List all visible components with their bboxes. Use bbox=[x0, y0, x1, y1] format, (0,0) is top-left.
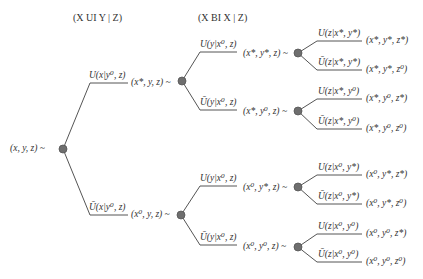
node-icon-l2-0 bbox=[294, 49, 302, 57]
root-state-label: (x, y, z) ~ bbox=[10, 144, 45, 154]
edge-root-upper bbox=[63, 83, 128, 149]
l3-edge-label-3: Ū(z|x*, y⁰) bbox=[318, 117, 359, 127]
l3-state-label-1: (x*, y*, z⁰) bbox=[366, 65, 407, 75]
node-icon-l2-2 bbox=[294, 183, 302, 191]
l2-edge-label-3: Ū(y|x⁰, z) bbox=[200, 233, 237, 243]
l3-edge-label-7: Ū(z|x⁰, y⁰) bbox=[318, 250, 358, 260]
l3-state-label-0: (x*, y*, z*) bbox=[366, 36, 408, 46]
l3-edge-label-1: Ū(z|x*, y*) bbox=[318, 58, 360, 68]
header-left: (X UI Y | Z) bbox=[73, 12, 122, 23]
edge-l2-2-upper bbox=[298, 175, 362, 187]
l2-state-label-0: (x*, y*, z) ~ bbox=[243, 49, 288, 59]
edge-l2-3-upper bbox=[298, 234, 362, 247]
l2-state-label-1: (x*, y⁰, z) ~ bbox=[243, 107, 287, 117]
probability-tree-diagram: (X UI Y | Z) (X BI X | Z) (x, y, z) ~ U(… bbox=[0, 0, 423, 279]
l2-edge-label-1: Ū(y|x⁰, z) bbox=[200, 98, 237, 108]
edge-l1b-upper bbox=[181, 186, 237, 215]
l3-state-label-7: (x⁰, y⁰, z⁰) bbox=[366, 257, 405, 267]
l3-state-label-4: (x⁰, y*, z*) bbox=[366, 170, 407, 180]
node-icon-l2-3 bbox=[294, 243, 302, 251]
l3-state-label-3: (x*, y⁰, z⁰) bbox=[366, 124, 406, 134]
l2-edge-label-0: U(y|x⁰, z) bbox=[200, 40, 237, 50]
l3-edge-label-6: U(z|x⁰, y⁰) bbox=[318, 222, 358, 232]
l3-state-label-2: (x*, y⁰, z*) bbox=[366, 94, 407, 104]
edge-l1a-upper bbox=[182, 52, 237, 81]
l2-state-label-3: (x⁰, y⁰, z) ~ bbox=[243, 242, 286, 252]
l3-state-label-6: (x⁰, y⁰, z*) bbox=[366, 229, 406, 239]
l2-edge-label-2: U(y|x⁰, z) bbox=[200, 174, 237, 184]
l2-state-label-2: (x⁰, y*, z) ~ bbox=[243, 183, 287, 193]
l3-edge-label-5: Ū(z|x⁰, y*) bbox=[318, 192, 359, 202]
node-icon-l2-1 bbox=[294, 107, 302, 115]
l1-state-label-lower: (x⁰, y, z) ~ bbox=[131, 210, 170, 220]
l3-state-label-5: (x⁰, y*, z⁰) bbox=[366, 199, 406, 209]
node-icon-l1a bbox=[178, 77, 186, 85]
l3-edge-label-2: U(z|x*, y⁰) bbox=[318, 87, 359, 97]
edge-l2-0-upper bbox=[298, 41, 362, 53]
l1-state-label-upper: (x*, y, z) ~ bbox=[131, 78, 171, 88]
l3-edge-label-4: U(z|x⁰, y*) bbox=[318, 163, 359, 173]
l1-edge-label-lower: Ū(x|y⁰, z) bbox=[89, 203, 126, 213]
edge-l2-1-upper bbox=[298, 99, 362, 111]
node-icon-l1b bbox=[177, 211, 185, 219]
l1-edge-label-upper: U(x|y⁰, z) bbox=[89, 71, 126, 81]
l3-edge-label-0: U(z|x*, y*) bbox=[318, 29, 360, 39]
root-node-icon bbox=[59, 145, 67, 153]
header-right: (X BI X | Z) bbox=[198, 12, 247, 23]
